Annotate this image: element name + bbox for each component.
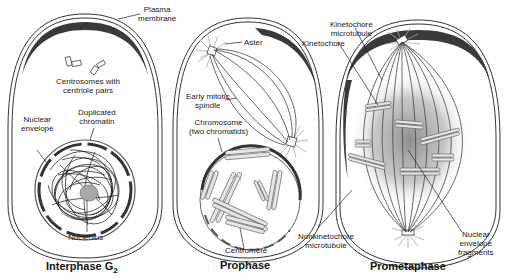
label-nuclear-envelope: Nuclear envelope xyxy=(21,115,53,133)
prophase-cell xyxy=(173,18,323,262)
label-nonkinetochore-microtubule: Nonkinetochore microtubule xyxy=(298,232,354,250)
title-interphase: Interphase G2 xyxy=(46,260,118,275)
title-prometaphase: Prometaphase xyxy=(370,260,446,272)
label-nucleolus: Nucleolus xyxy=(68,233,103,242)
label-kinetochore-microtubule: Kinetochore microtubule xyxy=(330,20,373,38)
aster-bottom xyxy=(392,226,424,248)
label-chromosome: Chromosome (two chromatids) xyxy=(189,118,248,136)
label-centromere: Centromere xyxy=(225,246,267,255)
label-aster: Aster xyxy=(244,38,263,47)
label-nuclear-envelope-fragments: Nuclear envelope fragments xyxy=(458,230,494,257)
label-early-mitotic-spindle: Early mitotic spindle xyxy=(186,92,230,110)
centrosome-icon xyxy=(65,56,105,75)
title-prophase: Prophase xyxy=(220,259,270,271)
nucleolus-shape xyxy=(80,185,98,201)
label-kinetochore: Kinetochore xyxy=(302,39,345,48)
nucleus-interphase xyxy=(35,140,135,240)
label-centrosomes: Centrosomes with centriole pairs xyxy=(56,77,120,95)
nucleus-prophase xyxy=(200,146,300,250)
label-duplicated-chromatin: Duplicated chromatin xyxy=(78,108,116,126)
label-plasma-membrane: Plasma membrane xyxy=(138,5,176,23)
interphase-cell xyxy=(8,14,162,262)
